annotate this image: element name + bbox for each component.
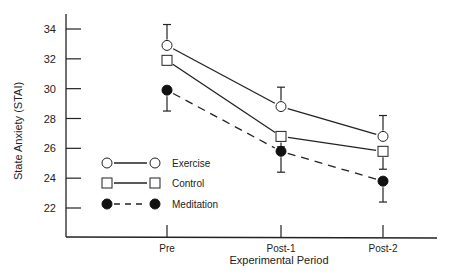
y-tick-label: 26 <box>44 142 56 154</box>
y-tick-label: 30 <box>44 83 56 95</box>
series-line <box>173 49 275 104</box>
data-point <box>378 176 388 186</box>
y-tick-label: 22 <box>44 202 56 214</box>
legend-marker <box>102 178 112 188</box>
x-tick-label: Pre <box>159 243 175 254</box>
legend-marker <box>150 199 160 209</box>
y-tick-label: 34 <box>44 23 56 35</box>
legend-marker <box>150 158 160 168</box>
data-point <box>276 102 286 112</box>
data-point <box>162 55 172 65</box>
series-control <box>162 55 388 169</box>
y-tick-label: 24 <box>44 172 56 184</box>
legend-label: Exercise <box>172 158 211 169</box>
axes: 22242628303234PrePost-1Post-2 <box>44 14 437 254</box>
line-chart: 22242628303234PrePost-1Post-2 ExerciseCo… <box>0 0 450 279</box>
series-line <box>173 93 275 148</box>
y-tick-label: 32 <box>44 53 56 65</box>
legend-label: Control <box>172 178 204 189</box>
series-line <box>288 109 377 135</box>
data-point <box>162 85 172 95</box>
series-line <box>288 153 377 179</box>
y-axis-label: State Anxiety (STAI) <box>12 82 24 180</box>
legend-marker <box>150 178 160 188</box>
legend: ExerciseControlMeditation <box>102 158 218 210</box>
y-tick-label: 28 <box>44 113 56 125</box>
series-line <box>288 137 376 150</box>
data-point <box>162 40 172 50</box>
x-tick-label: Post-1 <box>267 243 296 254</box>
series-exercise <box>162 25 388 142</box>
legend-item-control: Control <box>102 178 204 189</box>
legend-item-meditation: Meditation <box>102 199 218 210</box>
legend-marker <box>102 199 112 209</box>
data-point <box>276 146 286 156</box>
data-point <box>378 131 388 141</box>
legend-item-exercise: Exercise <box>102 158 211 169</box>
x-axis-line <box>66 237 437 238</box>
legend-label: Meditation <box>172 199 218 210</box>
data-point <box>276 131 286 141</box>
x-tick-label: Post-2 <box>369 243 398 254</box>
plot-area <box>162 25 388 203</box>
series-line <box>173 64 275 132</box>
legend-marker <box>102 158 112 168</box>
data-point <box>378 146 388 156</box>
x-axis-label: Experimental Period <box>229 254 328 266</box>
